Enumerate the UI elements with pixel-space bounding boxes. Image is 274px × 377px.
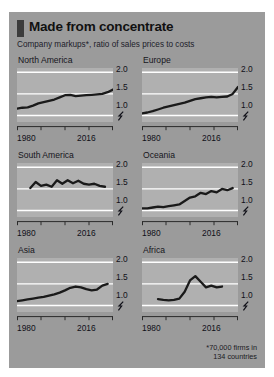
- x-axis: [17, 126, 113, 132]
- y-axis-tick-label: 2.0: [241, 159, 253, 169]
- plot-svg: [142, 258, 238, 312]
- y-axis-tick-label: 1.5: [116, 177, 128, 187]
- x-axis: [17, 316, 113, 322]
- y-axis-tick-label: 1.0: [241, 195, 253, 205]
- panel-north-america: North America2.01.51.019802016: [17, 55, 135, 148]
- x-axis-start-label: 1980: [17, 133, 36, 143]
- x-axis-end-label: 2016: [77, 228, 96, 238]
- y-axis-tick-label: 1.5: [241, 82, 253, 92]
- plot-wrapper: 2.01.51.019802016: [17, 258, 135, 338]
- y-axis-tick-label: 2.0: [116, 64, 128, 74]
- data-series-line: [17, 90, 113, 109]
- x-axis: [142, 126, 238, 132]
- plot-wrapper: 2.01.51.019802016: [142, 258, 260, 338]
- plot-area: [17, 258, 113, 312]
- plot-svg: [17, 68, 113, 122]
- panel-title: Europe: [143, 55, 171, 65]
- y-axis-tick-label: 1.5: [116, 272, 128, 282]
- y-axis-tick-label: 2.0: [116, 254, 128, 264]
- panel-asia: Asia2.01.51.019802016: [17, 245, 135, 338]
- data-series-line: [142, 87, 238, 113]
- axis-break-icon: [242, 111, 251, 121]
- x-axis-start-label: 1980: [142, 323, 161, 333]
- y-axis-tick-label: 1.0: [116, 290, 128, 300]
- panel-title: South America: [18, 150, 74, 160]
- y-axis-tick-label: 2.0: [241, 254, 253, 264]
- panel-title: Africa: [143, 245, 165, 255]
- data-series-line: [30, 180, 105, 188]
- x-axis: [142, 316, 238, 322]
- x-axis-end-label: 2016: [202, 228, 221, 238]
- axis-break-icon: [117, 206, 126, 216]
- y-axis-tick-label: 1.0: [116, 195, 128, 205]
- panel-south-america: South America2.01.51.019802016: [17, 150, 135, 243]
- x-axis-end-label: 2016: [202, 133, 221, 143]
- chart-card: Made from concentrate Company markups*, …: [9, 12, 265, 368]
- y-axis-tick-label: 1.0: [116, 100, 128, 110]
- plot-svg: [17, 163, 113, 217]
- small-multiples-grid: North America2.01.51.019802016Europe2.01…: [17, 55, 260, 340]
- page-title: Made from concentrate: [29, 19, 173, 34]
- panel-oceania: Oceania2.01.51.019802016: [142, 150, 260, 243]
- y-axis-tick-label: 1.5: [241, 177, 253, 187]
- panel-title: Oceania: [143, 150, 175, 160]
- y-axis-tick-label: 2.0: [241, 64, 253, 74]
- y-axis-tick-label: 2.0: [116, 159, 128, 169]
- plot-area: [142, 258, 238, 312]
- data-series-line: [158, 276, 222, 300]
- y-axis-tick-label: 1.0: [241, 290, 253, 300]
- plot-wrapper: 2.01.51.019802016: [142, 163, 260, 243]
- plot-wrapper: 2.01.51.019802016: [142, 68, 260, 148]
- panel-title: North America: [18, 55, 72, 65]
- plot-svg: [17, 258, 113, 312]
- accent-bar: [17, 20, 24, 37]
- axis-break-icon: [117, 301, 126, 311]
- y-axis-tick-label: 1.5: [116, 82, 128, 92]
- footnote: *70,000 firms in 134 countries: [206, 343, 257, 361]
- panel-title: Asia: [18, 245, 35, 255]
- axis-break-icon: [117, 111, 126, 121]
- x-axis-start-label: 1980: [142, 133, 161, 143]
- x-axis-end-label: 2016: [77, 133, 96, 143]
- plot-area: [17, 68, 113, 122]
- panel-europe: Europe2.01.51.019802016: [142, 55, 260, 148]
- plot-area: [142, 68, 238, 122]
- plot-svg: [142, 68, 238, 122]
- y-axis-tick-label: 1.0: [241, 100, 253, 110]
- plot-area: [142, 163, 238, 217]
- axis-break-icon: [242, 301, 251, 311]
- panel-africa: Africa2.01.51.019802016: [142, 245, 260, 338]
- plot-wrapper: 2.01.51.019802016: [17, 163, 135, 243]
- x-axis-end-label: 2016: [77, 323, 96, 333]
- axis-break-icon: [242, 206, 251, 216]
- x-axis-end-label: 2016: [202, 323, 221, 333]
- plot-svg: [142, 163, 238, 217]
- y-axis-tick-label: 1.5: [241, 272, 253, 282]
- plot-wrapper: 2.01.51.019802016: [17, 68, 135, 148]
- data-series-line: [142, 188, 233, 208]
- x-axis: [17, 221, 113, 227]
- x-axis: [142, 221, 238, 227]
- page-subtitle: Company markups*, ratio of sales prices …: [17, 40, 194, 49]
- data-series-line: [17, 284, 108, 301]
- x-axis-start-label: 1980: [17, 228, 36, 238]
- x-axis-start-label: 1980: [17, 323, 36, 333]
- x-axis-start-label: 1980: [142, 228, 161, 238]
- plot-area: [17, 163, 113, 217]
